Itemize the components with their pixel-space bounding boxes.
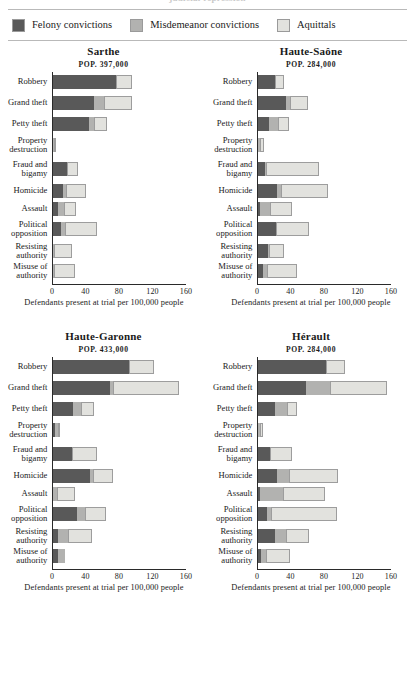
bar-segment-acquit bbox=[260, 138, 264, 152]
category-label: Property destruction bbox=[190, 136, 252, 155]
category-label: Grand theft bbox=[190, 383, 252, 392]
category-label: Grand theft bbox=[190, 98, 252, 107]
category-label: Political opposition bbox=[0, 505, 47, 524]
bar-segment-acquit bbox=[64, 202, 76, 216]
x-tick-label: 40 bbox=[286, 287, 294, 296]
x-tick-label: 0 bbox=[255, 572, 259, 581]
category-label: Robbery bbox=[0, 362, 47, 371]
x-axis-title: Defendants present at trial per 100,000 … bbox=[211, 298, 411, 307]
x-axis-title: Defendants present at trial per 100,000 … bbox=[4, 298, 204, 307]
bar-segment-acquit bbox=[93, 469, 113, 483]
bar-segment-misd bbox=[275, 529, 286, 543]
panel-title: Hérault bbox=[207, 329, 415, 343]
bar-segment-felony bbox=[53, 117, 89, 131]
category-label: Petty theft bbox=[0, 119, 47, 128]
category-label: Property destruction bbox=[190, 421, 252, 440]
x-tick-label: 80 bbox=[320, 572, 328, 581]
bar-segment-felony bbox=[258, 402, 275, 416]
x-tick-label: 120 bbox=[351, 572, 364, 581]
category-label: Resisting authority bbox=[190, 527, 252, 546]
legend-label-misdemeanor: Misdemeanor convictions bbox=[150, 20, 259, 31]
bar-segment-felony bbox=[53, 360, 128, 374]
bar-segment-felony bbox=[258, 507, 266, 521]
panel-title: Sarthe bbox=[0, 44, 207, 58]
x-tick-label: 40 bbox=[286, 572, 294, 581]
bar-segment-acquit bbox=[65, 222, 97, 236]
bar-segment-misd bbox=[260, 202, 270, 216]
panel-grid: SarthePOP. 397,000RobberyGrand theftPett… bbox=[0, 44, 415, 570]
bar-segment-acquit bbox=[275, 75, 283, 89]
x-tick-label: 80 bbox=[320, 287, 328, 296]
category-label: Property destruction bbox=[0, 136, 47, 155]
bar-segment-misd bbox=[94, 96, 105, 110]
legend-item-misdemeanor: Misdemeanor convictions bbox=[130, 19, 259, 32]
bar-rows: RobberyGrand theftPetty theftProperty de… bbox=[258, 357, 399, 568]
plot-area: RobberyGrand theftPetty theftProperty de… bbox=[52, 72, 194, 285]
bar-segment-misd bbox=[275, 402, 287, 416]
category-label: Petty theft bbox=[0, 404, 47, 413]
bar-segment-acquit bbox=[67, 162, 78, 176]
x-tick-label: 120 bbox=[146, 287, 159, 296]
bar-segment-felony bbox=[53, 75, 116, 89]
category-label: Assault bbox=[0, 204, 47, 213]
bar-rows: RobberyGrand theftPetty theftProperty de… bbox=[258, 72, 399, 283]
bar-segment-acquit bbox=[281, 184, 328, 198]
bar-segment-acquit bbox=[266, 549, 290, 563]
category-label: Assault bbox=[0, 489, 47, 498]
bar-segment-acquit bbox=[326, 360, 345, 374]
bar-segment-felony bbox=[53, 162, 66, 176]
bar-segment-acquit bbox=[286, 529, 309, 543]
bar-segment-acquit bbox=[271, 507, 337, 521]
panel-population: POP. 284,000 bbox=[207, 343, 415, 357]
bar-segment-felony bbox=[258, 96, 286, 110]
bar-segment-felony bbox=[53, 447, 71, 461]
plot-area: RobberyGrand theftPetty theftProperty de… bbox=[257, 357, 399, 570]
x-tick-label: 0 bbox=[50, 287, 54, 296]
bar-segment-acquit bbox=[276, 222, 309, 236]
bar-segment-misd bbox=[269, 117, 277, 131]
legend: Felony convictionsMisdemeanor conviction… bbox=[8, 9, 407, 41]
category-label: Petty theft bbox=[190, 404, 252, 413]
bar-segment-misd bbox=[73, 402, 81, 416]
bar-segment-acquit bbox=[113, 381, 179, 395]
category-label: Homicide bbox=[0, 186, 47, 195]
x-tick-label: 80 bbox=[115, 572, 123, 581]
category-label: Robbery bbox=[0, 77, 47, 86]
x-axis-title: Defendants present at trial per 100,000 … bbox=[4, 583, 204, 592]
x-tick-label: 40 bbox=[81, 287, 89, 296]
bar-segment-felony bbox=[258, 381, 306, 395]
bar-segment-felony bbox=[53, 402, 72, 416]
x-tick-label: 120 bbox=[146, 572, 159, 581]
bar-rows: RobberyGrand theftPetty theftProperty de… bbox=[53, 357, 194, 568]
category-label: Robbery bbox=[190, 77, 252, 86]
panel-title: Haute-Saône bbox=[207, 44, 415, 58]
bar-segment-acquit bbox=[267, 264, 297, 278]
panel-title: Haute-Garonne bbox=[0, 329, 207, 343]
bar-segment-misd bbox=[77, 507, 85, 521]
category-label: Political opposition bbox=[190, 220, 252, 239]
bar-segment-acquit bbox=[260, 423, 263, 437]
category-label: Grand theft bbox=[0, 98, 47, 107]
bar-segment-felony bbox=[258, 162, 265, 176]
legend-item-acquittals: Aquittals bbox=[277, 19, 336, 32]
bar-segment-acquit bbox=[66, 184, 86, 198]
bar-segment-acquit bbox=[270, 202, 292, 216]
category-label: Fraud and bigamy bbox=[190, 445, 252, 464]
category-label: Resisting authority bbox=[190, 242, 252, 261]
legend-item-felony: Felony convictions bbox=[12, 19, 112, 32]
legend-swatch-felony bbox=[12, 19, 25, 32]
category-label: Assault bbox=[190, 204, 252, 213]
bar-segment-misd bbox=[58, 529, 68, 543]
category-label: Political opposition bbox=[190, 505, 252, 524]
bar-segment-acquit bbox=[287, 402, 297, 416]
x-tick-label: 40 bbox=[81, 572, 89, 581]
category-label: Misuse of authority bbox=[190, 262, 252, 281]
x-tick-label: 160 bbox=[180, 287, 193, 296]
category-label: Fraud and bigamy bbox=[0, 445, 47, 464]
panel-h-rault: HéraultPOP. 284,000RobberyGrand theftPet… bbox=[207, 329, 415, 570]
bar-segment-acquit bbox=[266, 162, 319, 176]
x-tick-label: 0 bbox=[50, 572, 54, 581]
panel-row: SarthePOP. 397,000RobberyGrand theftPett… bbox=[0, 44, 415, 285]
bar-segment-felony bbox=[258, 184, 276, 198]
legend-swatch-acquittals bbox=[277, 19, 290, 32]
